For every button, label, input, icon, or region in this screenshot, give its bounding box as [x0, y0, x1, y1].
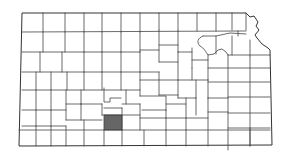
- map-svg: [0, 0, 286, 155]
- kansas-county-map: Kansas county locator map: [0, 0, 286, 155]
- highlighted-county-kiowa[interactable]: [104, 115, 122, 130]
